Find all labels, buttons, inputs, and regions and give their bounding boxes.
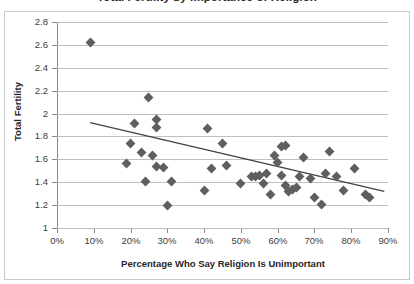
x-tick-label: 70% [294,236,334,246]
x-tick-label: 10% [74,236,114,246]
scatter-chart-figure: Total Fertility by Importance of Religio… [0,0,414,284]
x-tick-mark [57,229,58,233]
y-axis-title: Total Fertility [12,52,23,172]
plot-area [57,22,388,228]
x-tick-mark [278,229,279,233]
y-tick-label: 1 [4,223,48,233]
x-tick-label: 80% [331,236,371,246]
x-tick-mark [314,229,315,233]
x-tick-mark [388,229,389,233]
y-tick-label: 2.6 [4,40,48,50]
x-axis-title: Percentage Who Say Religion Is Unimporta… [57,258,389,269]
x-tick-mark [241,229,242,233]
x-tick-label: 0% [37,236,77,246]
x-tick-mark [204,229,205,233]
x-tick-label: 60% [258,236,298,246]
chart-title: Total Fertility by Importance of Religio… [0,0,414,5]
x-tick-mark [131,229,132,233]
trendline [57,22,388,228]
x-tick-label: 90% [368,236,408,246]
y-tick-label: 1.2 [4,200,48,210]
x-tick-label: 30% [147,236,187,246]
x-tick-label: 50% [221,236,261,246]
x-tick-mark [351,229,352,233]
y-tick-label: 1.4 [4,177,48,187]
y-tick-label: 2.8 [4,17,48,27]
x-tick-label: 40% [184,236,224,246]
x-tick-mark [167,229,168,233]
gridline [57,228,388,229]
x-tick-label: 20% [111,236,151,246]
x-tick-mark [94,229,95,233]
